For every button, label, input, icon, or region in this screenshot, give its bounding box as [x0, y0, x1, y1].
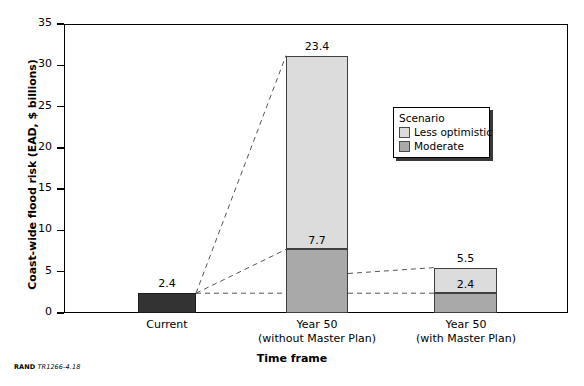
bar-year50-without-moderate[interactable] [286, 249, 348, 313]
x-category-year50-without-line1: Year 50 [297, 318, 338, 331]
y-tick-mark-20 [57, 147, 64, 149]
x-axis-title: Time frame [0, 352, 584, 365]
x-category-year50-without-line2: (without Master Plan) [247, 332, 387, 346]
legend-title: Scenario [399, 112, 484, 124]
y-tick-label-0: 0 [45, 305, 52, 318]
bar-label-year50-with-total: 5.5 [434, 252, 497, 265]
y-tick-label-35: 35 [38, 16, 52, 29]
legend-swatch-moderate [399, 141, 410, 152]
figure-source-note: RAND TR1266-4.18 [14, 363, 80, 371]
bar-label-current-total: 2.4 [138, 277, 196, 290]
y-axis-title: Coast-wide flood risk (EAD, $ billions) [26, 25, 39, 325]
source-org: RAND [14, 363, 35, 371]
y-tick-label-10: 10 [38, 222, 52, 235]
figure-container: Coast-wide flood risk (EAD, $ billions) … [0, 0, 584, 386]
y-tick-label-20: 20 [38, 140, 52, 153]
y-tick-mark-10 [57, 230, 64, 232]
legend: Scenario Less optimistic Moderate [393, 107, 490, 158]
legend-item-moderate[interactable]: Moderate [399, 140, 484, 152]
source-code: TR1266-4.18 [37, 363, 80, 371]
x-category-year50-with-line2: (with Master Plan) [396, 332, 536, 346]
legend-item-less-optimistic[interactable]: Less optimistic [399, 126, 484, 138]
y-tick-mark-0 [57, 312, 64, 314]
y-tick-mark-35 [57, 23, 64, 25]
x-category-year50-with: Year 50 (with Master Plan) [396, 318, 536, 346]
bar-label-year50-without-moderate: 7.7 [286, 234, 348, 247]
y-tick-mark-30 [57, 65, 64, 67]
bar-year50-without-less-optimistic[interactable] [286, 56, 348, 250]
bar-year50-with-moderate[interactable] [434, 293, 497, 313]
y-tick-label-30: 30 [38, 57, 52, 70]
x-category-current-line1: Current [146, 318, 187, 331]
x-category-current: Current [97, 318, 237, 332]
legend-label-moderate: Moderate [414, 140, 464, 152]
x-category-year50-without: Year 50 (without Master Plan) [247, 318, 387, 346]
y-tick-label-15: 15 [38, 181, 52, 194]
y-tick-label-5: 5 [45, 264, 52, 277]
y-tick-mark-25 [57, 106, 64, 108]
legend-label-less-optimistic: Less optimistic [414, 126, 492, 138]
legend-swatch-less-optimistic [399, 127, 410, 138]
y-tick-mark-15 [57, 188, 64, 190]
y-tick-mark-5 [57, 271, 64, 273]
y-tick-label-25: 25 [38, 99, 52, 112]
x-category-year50-with-line1: Year 50 [446, 318, 487, 331]
bar-current-moderate[interactable] [138, 293, 196, 313]
bar-label-year50-without-total: 23.4 [286, 40, 348, 53]
bar-label-year50-with-moderate: 2.4 [434, 278, 497, 291]
